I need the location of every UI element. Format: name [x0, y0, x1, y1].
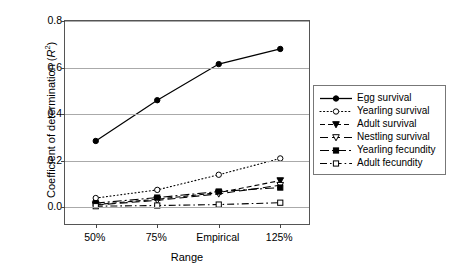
x-tick-label: Empirical	[196, 231, 239, 243]
series-line	[96, 181, 281, 205]
gridline	[65, 161, 309, 162]
data-point	[216, 61, 221, 66]
data-point	[278, 46, 283, 51]
y-tick-mark	[61, 114, 65, 115]
legend-label: Yearling survival	[354, 104, 429, 117]
legend-label: Nestling survival	[354, 130, 430, 143]
legend-item[interactable]: Yearling survival	[318, 104, 441, 117]
y-tick-mark	[61, 68, 65, 69]
legend-label: Adult survival	[354, 117, 416, 130]
legend-key-icon	[318, 143, 354, 156]
y-tick-label: 0.8	[32, 15, 62, 25]
x-tick-label: 75%	[146, 231, 167, 243]
data-point	[216, 172, 221, 177]
series-line	[96, 49, 281, 141]
legend-item[interactable]: Adult survival	[318, 117, 441, 130]
data-point	[93, 138, 98, 143]
legend-key-icon	[318, 156, 354, 169]
x-tick-mark	[219, 224, 220, 228]
legend-key-icon	[318, 117, 354, 130]
data-point	[155, 98, 160, 103]
gridline	[65, 114, 309, 115]
gridline	[65, 21, 309, 22]
series-layer	[65, 21, 311, 226]
legend-item[interactable]: Adult fecundity	[318, 156, 441, 169]
legend-key-icon	[318, 91, 354, 104]
series-yearling-survival	[93, 156, 283, 201]
legend-key-icon	[318, 104, 354, 117]
legend-key-icon	[318, 130, 354, 143]
y-tick-mark	[61, 161, 65, 162]
data-point	[93, 195, 98, 200]
data-point	[155, 195, 160, 200]
data-point	[155, 187, 160, 192]
x-tick-label: 125%	[266, 231, 293, 243]
series-egg-survival	[93, 46, 283, 143]
plot-area	[64, 20, 310, 225]
x-axis-title: Range	[64, 251, 310, 263]
data-point	[216, 189, 221, 194]
y-tick-label: 0.0	[32, 201, 62, 211]
y-tick-label: 0.2	[32, 155, 62, 165]
legend-label: Adult fecundity	[354, 156, 423, 169]
legend-label: Egg survival	[354, 91, 411, 104]
y-tick-mark	[61, 207, 65, 208]
x-tick-mark	[157, 224, 158, 228]
legend-key-marker	[333, 109, 338, 114]
legend-key-marker	[333, 148, 338, 153]
series-line	[96, 188, 281, 204]
y-tick-label: 0.6	[32, 62, 62, 72]
legend-item[interactable]: Egg survival	[318, 91, 441, 104]
chart-legend: Egg survivalYearling survivalAdult survi…	[313, 85, 446, 175]
legend-key-marker	[333, 161, 338, 166]
series-nestling-survival	[92, 182, 283, 208]
y-axis-ticks: 0.80.60.40.20.0	[12, 0, 62, 277]
chart-figure: Coefficient of determination (R2) 0.80.6…	[0, 0, 457, 277]
y-tick-label: 0.4	[32, 108, 62, 118]
x-tick-mark	[280, 224, 281, 228]
gridline	[65, 207, 309, 208]
data-point	[278, 200, 283, 205]
legend-label: Yearling fecundity	[354, 143, 436, 156]
data-point	[278, 185, 283, 190]
y-tick-mark	[61, 21, 65, 22]
legend-item[interactable]: Nestling survival	[318, 130, 441, 143]
legend-key-marker	[333, 96, 338, 101]
x-tick-label: 50%	[84, 231, 105, 243]
gridline	[65, 68, 309, 69]
x-tick-mark	[96, 224, 97, 228]
legend-item[interactable]: Yearling fecundity	[318, 143, 441, 156]
series-line	[96, 158, 281, 198]
